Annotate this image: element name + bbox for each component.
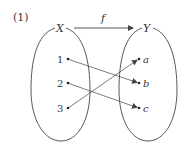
mapping-diagram: (1) X Y f 1 2 3 a b c xyxy=(0,0,182,152)
set-y-label: Y xyxy=(143,22,152,35)
element-2-label: 2 xyxy=(57,78,63,89)
element-2-dot xyxy=(67,82,70,85)
element-b-dot xyxy=(138,82,141,85)
element-a-label: a xyxy=(143,54,149,65)
element-1-dot xyxy=(67,58,70,61)
element-3-label: 3 xyxy=(57,103,63,114)
set-x-label: X xyxy=(55,22,65,35)
mapping-arrow-2-to-c xyxy=(69,84,137,108)
element-b-label: b xyxy=(143,78,149,89)
element-a-dot xyxy=(138,58,141,61)
problem-label: (1) xyxy=(13,11,29,24)
function-label: f xyxy=(100,12,107,25)
mapping-arrow-1-to-b xyxy=(69,60,137,83)
mapping-arrow-3-to-a xyxy=(69,60,137,108)
element-c-dot xyxy=(138,107,141,110)
element-1-label: 1 xyxy=(57,54,63,65)
element-3-dot xyxy=(67,107,70,110)
element-c-label: c xyxy=(143,103,149,114)
